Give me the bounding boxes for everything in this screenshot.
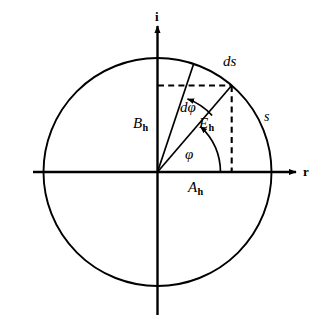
radius-vector-e-label: Eh bbox=[199, 116, 214, 133]
figure-canvas bbox=[0, 0, 328, 334]
imaginary-component-subscript: h bbox=[142, 122, 148, 133]
imaginary-component-symbol: B bbox=[133, 115, 142, 131]
real-axis-label: r bbox=[303, 165, 309, 178]
angle-phi-arc bbox=[201, 127, 221, 172]
angle-label: φ bbox=[185, 147, 193, 162]
real-component-subscript: h bbox=[197, 186, 203, 197]
real-component-symbol: A bbox=[188, 179, 197, 195]
figure-complex-plane-circle: i r s ds dφ φ Eh Bh Ah bbox=[0, 0, 328, 334]
radius-vector-e-symbol: E bbox=[199, 115, 208, 131]
angle-increment-label: dφ bbox=[180, 100, 196, 115]
real-component-label: Ah bbox=[188, 180, 203, 197]
radius-vector-e-subscript: h bbox=[208, 122, 214, 133]
arc-element-label: ds bbox=[223, 54, 236, 69]
imaginary-component-label: Bh bbox=[133, 116, 148, 133]
imaginary-axis-label: i bbox=[155, 10, 159, 23]
circle-curve-label: s bbox=[264, 110, 269, 124]
